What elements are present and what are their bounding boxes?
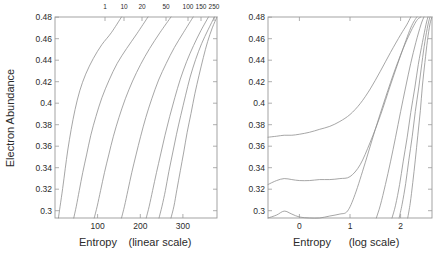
y-tick-label: 0.3 xyxy=(40,206,52,216)
y-tick-label: 0.38 xyxy=(35,120,52,130)
x-ticks-top-right xyxy=(299,17,400,21)
x-tick-label: 300 xyxy=(176,221,190,231)
contour-curve xyxy=(268,17,421,218)
top-tick-labels: 1 10 20 50 100 150 250 xyxy=(103,3,220,10)
y-tick-label: 0.48 xyxy=(35,12,52,22)
y-tick-label: 0.4 xyxy=(40,98,52,108)
x-axis-title-main: Entropy xyxy=(293,236,331,248)
y-tick-labels-right: 0.3 0.32 0.34 0.36 0.38 0.4 0.42 0.44 0.… xyxy=(248,12,265,216)
y-tick-label: 0.34 xyxy=(248,163,265,173)
y-ticks-right xyxy=(268,17,272,211)
chart-panel-linear: Electron Abundance 0.3 0.32 0.34 0.36 0.… xyxy=(0,0,226,257)
x-axis-title-main: Entropy xyxy=(79,236,117,248)
figure-root: Electron Abundance 0.3 0.32 0.34 0.36 0.… xyxy=(0,0,439,257)
y-tick-label: 0.3 xyxy=(253,206,265,216)
contour-curve xyxy=(268,17,411,137)
contour-curve xyxy=(392,17,428,218)
y-tick-label: 0.46 xyxy=(35,34,52,44)
y-tick-label: 0.42 xyxy=(248,77,265,87)
y-tick-label: 0.48 xyxy=(248,12,265,22)
contour-curve xyxy=(408,17,432,218)
y-tick-label: 0.32 xyxy=(248,184,265,194)
contour-curve xyxy=(94,17,171,218)
contour-curve xyxy=(171,17,217,218)
contour-curve xyxy=(268,17,417,185)
curve-group-log xyxy=(268,17,432,218)
x-ticks-left xyxy=(98,214,183,218)
y-tick-label: 0.32 xyxy=(35,184,52,194)
chart-panel-log: 0.3 0.32 0.34 0.36 0.38 0.4 0.42 0.44 0.… xyxy=(226,0,439,257)
x-tick-label: 2 xyxy=(398,221,403,231)
y-axis-title: Electron Abundance xyxy=(4,69,16,167)
y-tick-labels-left: 0.3 0.32 0.34 0.36 0.38 0.4 0.42 0.44 0.… xyxy=(35,12,52,216)
y-tick-label: 0.38 xyxy=(248,120,265,130)
top-tick-label: 10 xyxy=(120,3,128,10)
x-tick-label: 0 xyxy=(297,221,302,231)
y-ticks-left xyxy=(55,17,59,211)
y-tick-label: 0.34 xyxy=(35,163,52,173)
y-tick-label: 0.36 xyxy=(248,141,265,151)
contour-curve xyxy=(58,17,121,218)
y-tick-label: 0.36 xyxy=(35,141,52,151)
plot-frame-right xyxy=(268,17,432,218)
top-tick-label: 100 xyxy=(183,3,194,10)
y-ticks-right-mirror xyxy=(428,39,432,211)
x-axis-title-paren: (linear scale) xyxy=(129,236,192,248)
x-tick-labels-left: 100 200 300 xyxy=(91,221,191,231)
top-tick-label: 150 xyxy=(196,3,207,10)
x-ticks-right xyxy=(299,214,400,218)
x-tick-label: 1 xyxy=(348,221,353,231)
x-tick-label: 200 xyxy=(133,221,147,231)
contour-curve xyxy=(74,17,148,218)
contour-curve xyxy=(376,17,424,218)
top-tick-label: 50 xyxy=(162,3,170,10)
linear-panel-svg: Electron Abundance 0.3 0.32 0.34 0.36 0.… xyxy=(0,0,226,257)
contour-curve xyxy=(122,17,194,218)
top-tick-label: 250 xyxy=(209,3,220,10)
y-tick-label: 0.4 xyxy=(253,98,265,108)
y-tick-label: 0.44 xyxy=(248,55,265,65)
x-tick-label: 100 xyxy=(91,221,105,231)
top-tick-label: 20 xyxy=(138,3,146,10)
curve-group-linear xyxy=(58,17,217,218)
x-axis-title-paren: (log scale) xyxy=(349,236,400,248)
log-panel-svg: 0.3 0.32 0.34 0.36 0.38 0.4 0.42 0.44 0.… xyxy=(226,0,439,257)
y-tick-label: 0.42 xyxy=(35,77,52,87)
top-tick-label: 1 xyxy=(103,3,107,10)
y-ticks-left-mirror xyxy=(213,39,217,211)
x-tick-labels-right: 0 1 2 xyxy=(297,221,403,231)
y-tick-label: 0.44 xyxy=(35,55,52,65)
y-tick-label: 0.46 xyxy=(248,34,265,44)
